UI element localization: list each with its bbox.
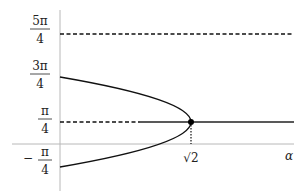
- tick-numerator: 5π: [32, 14, 48, 28]
- tick-denominator: 4: [36, 32, 44, 46]
- tick-denominator: 4: [41, 163, 49, 177]
- tick-numerator: π: [41, 104, 49, 118]
- y-tick-five-pi-over-4: 5π 4: [30, 14, 50, 46]
- y-tick-three-pi-over-4: 3π 4: [30, 59, 50, 91]
- tick-numerator: 3π: [32, 59, 48, 73]
- y-tick-minus-pi-over-4: − π 4: [23, 145, 52, 177]
- tick-numerator: π: [41, 145, 49, 159]
- tick-sign: −: [23, 151, 33, 165]
- bifurcation-diagram: 5π 4 3π 4 π 4 − π 4 √2 α: [0, 0, 308, 195]
- x-axis-label-alpha: α: [285, 149, 293, 163]
- tick-denominator: 4: [36, 77, 44, 91]
- y-tick-pi-over-4: π 4: [38, 104, 52, 136]
- bifurcation-point: [188, 119, 194, 125]
- tick-denominator: 4: [41, 122, 49, 136]
- x-tick-sqrt2: √2: [183, 151, 198, 165]
